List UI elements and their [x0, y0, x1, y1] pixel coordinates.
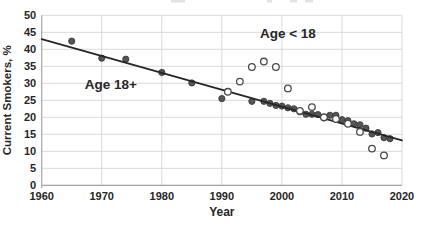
- y-tick-label: 30: [24, 77, 36, 89]
- data-point-age-under-18: [309, 104, 316, 111]
- data-point-age-under-18: [261, 58, 268, 65]
- x-tick-label: 2000: [270, 190, 294, 202]
- cropped-title-remnant: [267, 0, 272, 3]
- x-tick-label: 1970: [90, 190, 114, 202]
- data-point-age-under-18: [333, 116, 340, 123]
- x-tick-label: 2020: [390, 190, 414, 202]
- data-point-age-under-18: [357, 129, 364, 136]
- data-point-age-under-18: [249, 64, 256, 71]
- y-axis-title: Current Smokers, %: [1, 45, 13, 155]
- chart-svg: 0510152025303540455019601970198019902000…: [0, 0, 421, 232]
- x-tick-label: 2010: [330, 190, 354, 202]
- data-point-age-under-18: [225, 89, 232, 96]
- x-axis-title: Year: [209, 205, 235, 219]
- y-tick-label: 40: [24, 43, 36, 55]
- data-point-age-under-18: [237, 78, 244, 85]
- x-tick-label: 1980: [150, 190, 174, 202]
- x-tick-label: 1990: [210, 190, 234, 202]
- data-point-age-under-18: [285, 85, 292, 92]
- y-tick-label: 10: [24, 145, 36, 157]
- cropped-title-remnant: [305, 0, 313, 3]
- annotation-age-18: Age < 18: [260, 26, 316, 41]
- y-tick-label: 5: [30, 162, 36, 174]
- smoking-prevalence-chart: 0510152025303540455019601970198019902000…: [0, 0, 421, 232]
- x-tick-label: 1960: [29, 190, 53, 202]
- y-tick-label: 15: [24, 128, 36, 140]
- labels-layer: 0510152025303540455019601970198019902000…: [1, 9, 414, 219]
- annotation-age-18-: Age 18+: [85, 77, 137, 92]
- y-tick-label: 20: [24, 111, 36, 123]
- data-point-age-under-18: [345, 120, 352, 127]
- data-point-age-under-18: [369, 145, 376, 152]
- data-point-age-under-18: [297, 108, 304, 115]
- data-point-age-under-18: [273, 64, 280, 71]
- cropped-title-remnant: [290, 0, 297, 3]
- grid-layer: [42, 0, 402, 185]
- data-point-age-18plus: [219, 96, 225, 102]
- cropped-title-remnant: [171, 0, 185, 3]
- data-point-age-18plus: [69, 38, 75, 44]
- y-tick-label: 35: [24, 60, 36, 72]
- y-tick-label: 25: [24, 94, 36, 106]
- data-point-age-under-18: [381, 152, 388, 159]
- y-tick-label: 45: [24, 26, 36, 38]
- data-point-age-18plus: [357, 122, 363, 128]
- series-youth-layer: [225, 58, 388, 158]
- y-tick-label: 50: [24, 9, 36, 21]
- data-point-age-under-18: [321, 114, 328, 121]
